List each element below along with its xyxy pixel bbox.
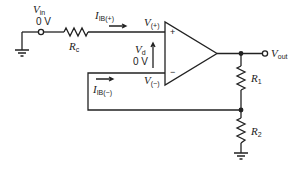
vd-label: Vd — [135, 44, 146, 56]
vin-terminal — [38, 29, 43, 34]
v-minus-label: V(−) — [144, 75, 159, 87]
ib-plus-label: IIB(+) — [95, 10, 114, 22]
ground-symbol-output — [234, 153, 248, 159]
rc-label: Rc — [69, 41, 79, 53]
r1-label: R1 — [251, 73, 262, 85]
vout-terminal — [262, 51, 267, 56]
ground-symbol-input — [15, 50, 29, 56]
vout-label: Vout — [271, 48, 287, 60]
vin-label: Vin — [33, 4, 45, 16]
rc-resistor — [64, 28, 88, 36]
plus-sign: + — [170, 28, 175, 37]
vd-value: 0 V — [133, 57, 148, 67]
ib-plus-arrow — [109, 24, 126, 28]
vin-value: 0 V — [36, 17, 51, 27]
vd-arrow — [151, 43, 155, 68]
r2-label: R2 — [251, 126, 262, 138]
r2-resistor — [237, 118, 245, 143]
ib-minus-arrow — [96, 77, 113, 81]
ib-minus-label: IIB(−) — [93, 84, 112, 96]
v-plus-label: V(+) — [144, 17, 159, 29]
r1-resistor — [237, 66, 245, 90]
minus-sign: − — [170, 68, 175, 77]
